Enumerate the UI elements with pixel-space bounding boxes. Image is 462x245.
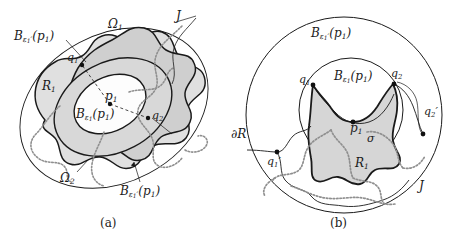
label-p1-a: p1 — [105, 90, 117, 103]
label-omega2-a: Ω2 — [60, 172, 75, 185]
caption-panel-b: (b) — [330, 216, 347, 230]
label-inner-ball-a: Bε1(p1) — [76, 108, 114, 122]
label-boundary-dR-b: ∂R — [231, 128, 246, 140]
label-q1prime-b: q1′ — [267, 156, 281, 168]
label-J-b: J — [419, 180, 424, 192]
figure-root: Bε1′(p1) Ω1 J q1 R1 p1 Bε1(p1) q2 Ω2 Bε1… — [0, 0, 462, 245]
label-R1-a: R1 — [42, 80, 56, 93]
point-q2-b — [392, 82, 397, 87]
label-R1-b: R1 — [355, 157, 369, 170]
point-q1prime-b — [275, 150, 280, 155]
label-q2-a: q2 — [152, 110, 163, 122]
caption-panel-a: (a) — [100, 216, 117, 230]
label-q2-b: q2 — [391, 68, 402, 80]
point-q2-a — [146, 116, 150, 120]
point-q2prime-b — [421, 132, 426, 137]
label-sigma-b: σ — [367, 133, 375, 144]
label-q2prime-b: q2′ — [424, 106, 438, 118]
point-q1-a — [80, 63, 84, 67]
label-J-a: J — [176, 10, 181, 22]
label-q1-b: q1 — [299, 74, 310, 86]
label-inner-ball-b: Bε1(p1) — [334, 70, 372, 84]
label-outer-ball-b: Bε1′(p1) — [311, 27, 351, 41]
label-outer-ball-a: Bε1′(p1) — [14, 30, 54, 44]
label-p1-b: p1 — [350, 122, 362, 135]
point-q1-b — [311, 83, 316, 88]
label-omega1-a: Ω1 — [108, 18, 123, 31]
label-q1-a: q1 — [67, 52, 78, 64]
label-outer-ball-bottom-a: Bε1′(p1) — [120, 185, 160, 199]
